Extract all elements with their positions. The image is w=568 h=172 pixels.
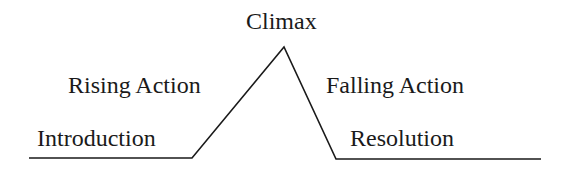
label-resolution: Resolution — [350, 126, 454, 150]
label-climax: Climax — [246, 9, 317, 33]
label-rising-action: Rising Action — [68, 73, 201, 97]
label-falling-action: Falling Action — [326, 73, 464, 97]
label-introduction: Introduction — [37, 126, 156, 150]
plot-structure-diagram: Climax Rising Action Falling Action Intr… — [0, 0, 568, 172]
